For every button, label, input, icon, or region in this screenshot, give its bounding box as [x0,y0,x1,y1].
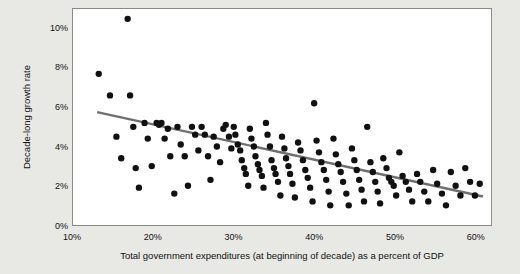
data-point [256,167,262,173]
data-point [313,137,319,143]
data-point [178,141,184,147]
data-point [247,126,253,132]
data-point [252,153,258,159]
data-point [467,179,473,185]
data-point [277,192,283,198]
data-point [457,192,463,198]
data-point [325,188,331,194]
data-point [305,175,311,181]
data-point [145,135,151,141]
data-point [271,165,277,171]
data-point [232,132,238,138]
y-tick-label: 10% [6,23,68,33]
data-point [226,133,232,139]
data-point [231,124,237,130]
y-tick-label: 6% [6,102,68,112]
y-tick-label: 0% [6,221,68,231]
data-point [309,198,315,204]
data-point [189,124,195,130]
data-point [281,145,287,151]
data-point [318,159,324,165]
data-point [349,145,355,151]
data-point [477,181,483,187]
data-point [425,198,431,204]
x-tick-label: 10% [63,232,81,242]
x-axis-label: Total government expenditures (at beginn… [72,250,492,261]
data-point [391,183,397,189]
data-point [372,179,378,185]
data-point [264,132,270,138]
data-point [434,181,440,187]
data-point [321,167,327,173]
data-point [361,198,367,204]
data-point [241,165,247,171]
data-point [174,124,180,130]
data-point [311,100,317,106]
data-point [130,124,136,130]
data-point [380,155,386,161]
data-point [393,192,399,198]
data-point [217,159,223,165]
data-point [133,165,139,171]
data-point [136,185,142,191]
data-point [263,120,269,126]
data-point [113,133,119,139]
data-point [237,147,243,153]
x-tick-label: 30% [225,232,243,242]
data-point [259,173,265,179]
data-point [207,177,213,183]
data-point [396,149,402,155]
data-point [295,139,301,145]
data-point [127,92,133,98]
data-point [472,192,478,198]
data-point [202,132,208,138]
data-point [439,190,445,196]
data-point [279,133,285,139]
data-point [149,163,155,169]
data-point [297,147,303,153]
data-point [165,126,171,132]
data-point [354,167,360,173]
data-point [343,190,349,196]
data-point [448,169,454,175]
data-point [223,122,229,128]
data-point [335,161,341,167]
data-point [370,169,376,175]
data-point [340,179,346,185]
data-point [239,157,245,163]
data-point [205,153,211,159]
data-point [214,143,220,149]
data-point [409,198,415,204]
scatter-chart: Decade-long growth rate 0%2%4%6%8%10% 10… [0,0,520,274]
data-point [283,155,289,161]
x-tick-label: 20% [144,232,162,242]
data-point [260,185,266,191]
data-point [255,161,261,167]
data-point [161,135,167,141]
data-point [377,200,383,206]
x-tick-label: 40% [305,232,323,242]
data-point [124,16,130,22]
data-point [443,202,449,208]
data-point [358,186,364,192]
data-point [185,183,191,189]
data-point [337,169,343,175]
data-point [210,133,216,139]
data-point [192,132,198,138]
data-point [167,153,173,159]
data-point [287,171,293,177]
data-point [462,165,468,171]
y-tick-label: 4% [6,142,68,152]
plot-svg [73,9,491,225]
data-point [367,159,373,165]
data-point [141,120,147,126]
data-point [403,179,409,185]
data-point [356,177,362,183]
data-point [228,145,234,151]
data-point [430,167,436,173]
data-point [107,92,113,98]
data-point [374,188,380,194]
data-point [118,155,124,161]
data-point [267,143,273,149]
data-point [235,141,241,147]
